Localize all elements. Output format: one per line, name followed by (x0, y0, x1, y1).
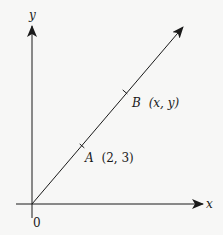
point-a-label: A (2, 3) (84, 151, 134, 165)
point-a-coords: (2, 3) (102, 151, 134, 165)
point-b-label: B (x, y) (131, 96, 180, 110)
point-b-tick (123, 90, 128, 94)
coordinate-diagram: y x 0 A (2, 3) B (x, y) (0, 0, 223, 235)
point-a-name: A (84, 151, 94, 165)
origin-label: 0 (33, 216, 41, 230)
x-axis-label: x (206, 197, 213, 211)
y-axis-label: y (28, 8, 36, 22)
diagram-canvas: y x 0 A (2, 3) B (x, y) (0, 0, 223, 235)
ray-line (32, 27, 183, 204)
point-b-coords: (x, y) (149, 96, 180, 110)
point-b-name: B (131, 96, 141, 110)
